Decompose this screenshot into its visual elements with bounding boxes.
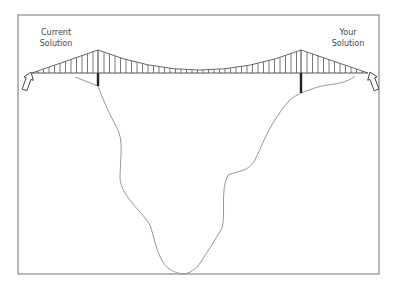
your-solution-line1: Your — [324, 27, 372, 38]
current-solution-line2: Solution — [36, 38, 76, 49]
diagram-frame — [18, 15, 379, 274]
current-solution-label: Current Solution — [36, 27, 76, 49]
your-solution-line2: Solution — [324, 38, 372, 49]
current-solution-line1: Current — [36, 27, 76, 38]
your-solution-label: Your Solution — [324, 27, 372, 49]
